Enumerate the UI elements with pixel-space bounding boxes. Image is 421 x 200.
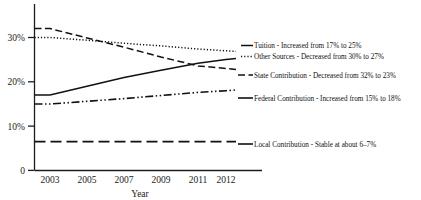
x-tick-label-2003: 2003 — [41, 175, 60, 185]
y-tick-label-0: 0 — [20, 166, 25, 176]
y-tick-label-10: 10% — [8, 122, 26, 132]
series-line-other-sources — [35, 38, 237, 52]
chart-canvas: 30% 20% 10% 0 2003 2005 2007 2009 2011 2… — [0, 0, 421, 200]
x-tick-label-2009: 2009 — [152, 175, 171, 185]
annotation-label-local-contribution: Local Contribution - Stable at about 6–7… — [254, 141, 376, 149]
annotation-label-tuition: Tuition - Increased from 17% to 25% — [254, 42, 362, 50]
x-tick-label-2011: 2011 — [189, 175, 208, 185]
line-chart: 30% 20% 10% 0 2003 2005 2007 2009 2011 2… — [0, 0, 421, 200]
x-tick-label-2012: 2012 — [217, 175, 236, 185]
annotation-label-federal-contribution: Federal Contribution - Increased from 15… — [254, 95, 401, 103]
x-tick-label-2007: 2007 — [115, 175, 134, 185]
annotation-label-other-sources: Other Sources - Decreased from 30% to 27… — [254, 53, 384, 61]
x-axis-title: Year — [131, 189, 149, 199]
x-tick-label-2005: 2005 — [78, 175, 97, 185]
series-line-tuition — [35, 58, 237, 95]
y-tick-label-20: 20% — [8, 77, 26, 87]
annotation-label-state-contribution: State Contribution - Decreased from 32% … — [254, 72, 396, 80]
series-line-state-contribution — [35, 29, 237, 70]
y-tick-label-30: 30% — [8, 33, 26, 43]
